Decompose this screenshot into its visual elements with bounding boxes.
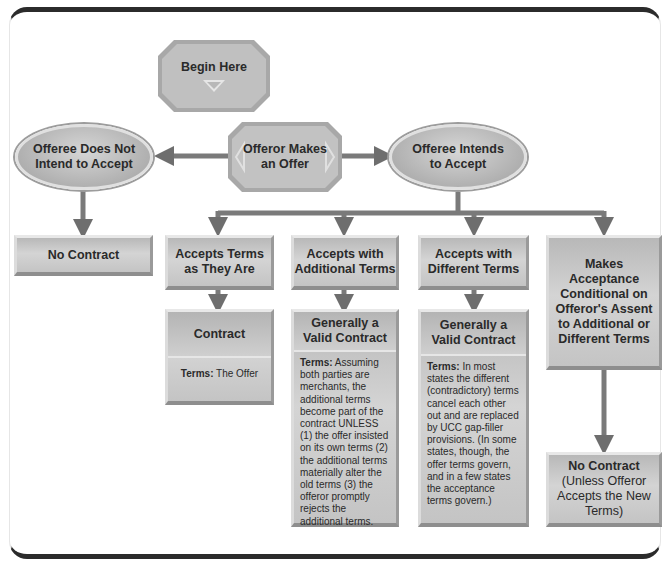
result-3-terms: Terms: In most states the different (con… [421, 356, 526, 512]
terms-label: Terms: [181, 368, 214, 379]
accept-line1: Offeree Intends [412, 142, 504, 157]
terms-label: Terms: [300, 357, 333, 368]
result-1-head: Contract [168, 312, 271, 358]
result-1-terms: Terms: The Offer [168, 358, 271, 385]
triangle-down-icon [203, 80, 225, 92]
branch-additional-terms: Accepts with Additional Terms [291, 235, 399, 290]
result-2-line1: Generally a [311, 316, 378, 331]
branch-2-line2: Additional Terms [294, 262, 395, 277]
terms-text: Assuming both parties are merchants, the… [300, 357, 388, 527]
offer-label-line2: an Offer [261, 157, 309, 172]
branch-3-line1: Accepts with [435, 247, 512, 262]
branch-3-line2: Different Terms [428, 262, 519, 277]
result-no-contract-unless: No Contract (Unless Offeror Accepts the … [546, 452, 662, 527]
offer-label-line1: Offeror Makes [243, 142, 327, 157]
result-valid-contract-different: Generally a Valid Contract Terms: In mos… [418, 309, 529, 527]
offeree-does-not-intend-node: Offeree Does Not Intend to Accept [15, 124, 153, 190]
octagon-shape [158, 40, 270, 112]
result-2-line2: Valid Contract [303, 331, 387, 346]
result-4-line2: (Unless Offeror Accepts the New Terms) [552, 474, 656, 519]
branch-2-line1: Accepts with [306, 247, 383, 262]
result-4-line1: No Contract [568, 459, 640, 474]
no-contract-box: No Contract [14, 235, 153, 276]
no-contract-label: No Contract [48, 248, 120, 263]
branch-1-line1: Accepts Terms [175, 247, 264, 262]
result-contract: Contract Terms: The Offer [165, 309, 274, 405]
branch-accepts-as-is: Accepts Terms as They Are [165, 235, 274, 290]
result-3-line1: Generally a [440, 318, 507, 333]
result-2-head: Generally a Valid Contract [294, 312, 396, 352]
no-accept-line2: Intend to Accept [35, 157, 132, 172]
terms-text: In most states the different (contradict… [427, 361, 519, 506]
branch-conditional-acceptance: Makes Acceptance Conditional on Offeror'… [546, 235, 662, 370]
offeror-makes-offer-node: Offeror Makes an Offer [228, 122, 342, 192]
branch-1-line2: as They Are [184, 262, 254, 277]
no-accept-line1: Offeree Does Not [33, 142, 135, 157]
offeree-intends-node: Offeree Intends to Accept [389, 124, 527, 190]
begin-here-node: Begin Here [158, 40, 270, 112]
accept-line2: to Accept [430, 157, 487, 172]
branch-4-label: Makes Acceptance Conditional on Offeror'… [553, 257, 655, 347]
result-1-title: Contract [194, 327, 245, 342]
terms-text: The Offer [213, 368, 258, 379]
begin-here-label: Begin Here [181, 60, 247, 75]
result-2-terms: Terms: Assuming both parties are merchan… [294, 352, 396, 533]
result-3-head: Generally a Valid Contract [421, 312, 526, 356]
terms-label: Terms: [427, 361, 460, 372]
result-valid-contract-additional: Generally a Valid Contract Terms: Assumi… [291, 309, 399, 527]
result-3-line2: Valid Contract [431, 333, 515, 348]
branch-different-terms: Accepts with Different Terms [418, 235, 529, 290]
